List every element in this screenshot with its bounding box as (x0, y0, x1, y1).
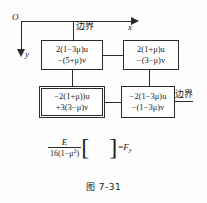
x-axis-label: x (128, 23, 132, 32)
result-subscript: y (129, 146, 132, 153)
figure-caption: 图 7-31 (0, 180, 207, 193)
connector-left-vertical (72, 70, 73, 86)
connector-top-horizontal (103, 55, 123, 56)
connector-right-vertical (149, 70, 150, 86)
bracket-open: [ (81, 139, 89, 156)
axis-origin-label: O (12, 13, 19, 22)
boundary-top-label: 边界 (76, 22, 94, 32)
x-axis-arrow-icon (131, 17, 139, 25)
fraction-numerator: E (59, 137, 71, 147)
formula-result: =Fy (118, 142, 131, 153)
y-axis-line (21, 21, 22, 50)
node-line-1: 2(1−3μ)u (56, 44, 88, 55)
bracket-close: ] (109, 139, 117, 156)
node-line-2: +3(3−μ)v (56, 102, 89, 113)
denominator-suffix: ) (76, 149, 79, 158)
formula-expression: E 16(1−μ2) [ ] =Fy (48, 137, 132, 158)
node-box-top-left: 2(1−3μ)u −(5+μ)v (41, 40, 103, 70)
node-box-bottom-right: −2(1−3μ)u −(1−3μ)v (121, 86, 175, 118)
node-line-1: −2(1+μ))u (54, 91, 89, 102)
boundary-top-leader-line (73, 22, 74, 40)
node-line-1: −2(1−3μ)u (130, 91, 167, 102)
y-axis-label: y (25, 50, 29, 59)
connector-bottom-horizontal (105, 102, 121, 103)
node-line-1: 2(1+μ)u (137, 44, 165, 55)
node-box-top-right: 2(1+μ)u −(3−μ)v (123, 40, 179, 70)
node-box-bottom-left: −2(1+μ))u +3(3−μ)v (39, 86, 105, 118)
boundary-right-label: 边界 (175, 90, 193, 102)
node-line-2: −(1−3μ)v (132, 102, 165, 113)
node-line-2: −(3−μ)v (137, 55, 165, 66)
y-axis-arrow-icon (17, 49, 25, 57)
fraction-denominator: 16(1−μ2) (48, 148, 81, 158)
denominator-prefix: 16(1−μ (50, 149, 73, 158)
fraction: E 16(1−μ2) (48, 137, 81, 158)
node-line-2: −(5+μ)v (58, 55, 86, 66)
figure-canvas: O x y 边界 边界 2(1−3μ)u −(5+μ)v 2(1+μ)u −(3… (0, 0, 207, 203)
